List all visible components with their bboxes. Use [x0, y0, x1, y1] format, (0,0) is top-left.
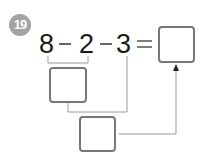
- bracket-8-2: [48, 56, 88, 63]
- answer-box-second-step[interactable]: [79, 116, 116, 152]
- arrow-up-icon: [173, 64, 179, 71]
- answer-box-first-step[interactable]: [49, 67, 87, 103]
- answer-box-final[interactable]: [158, 26, 195, 63]
- connector-step2-to-final: [119, 70, 176, 134]
